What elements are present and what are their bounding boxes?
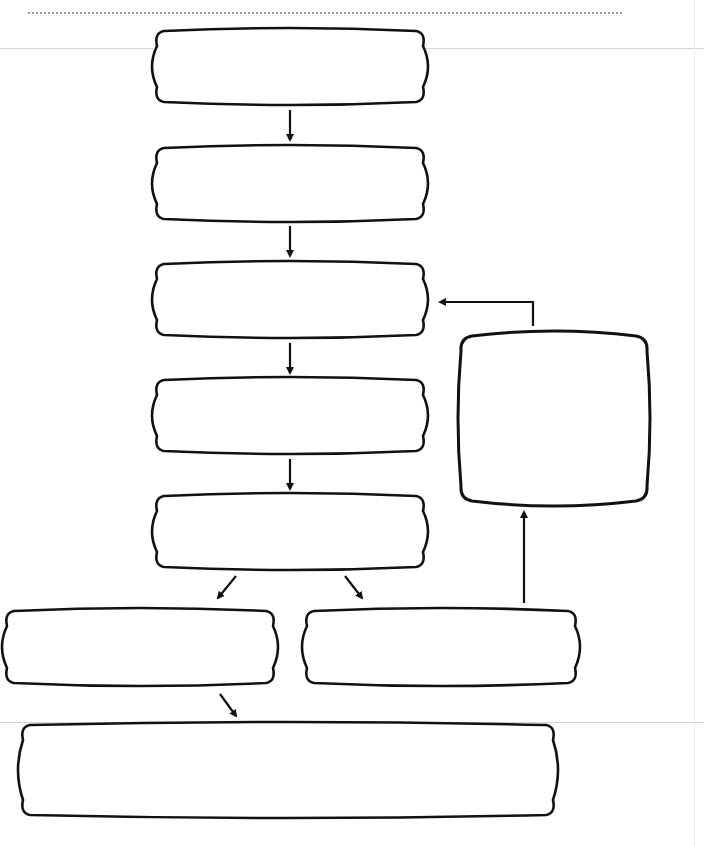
- flowchart-node-n3: [152, 261, 428, 338]
- flowchart-canvas: [0, 0, 704, 846]
- flowchart-node-n5: [152, 493, 428, 570]
- flowchart-node-n2: [152, 145, 428, 222]
- flowchart-node-n4: [152, 377, 428, 454]
- arrow-n5-to-n7: [345, 576, 362, 598]
- flowchart-node-n9: [18, 722, 558, 818]
- arrow-n6-to-n9: [220, 694, 236, 716]
- flowchart-node-n1: [152, 28, 428, 105]
- nodes-layer: [2, 28, 650, 818]
- diagram-svg: [0, 0, 704, 846]
- flowchart-node-n8: [458, 331, 650, 506]
- flowchart-node-n7: [302, 608, 580, 686]
- flowchart-node-n6: [2, 608, 278, 686]
- arrow-n5-to-n6: [218, 576, 236, 598]
- arrow-n8-to-n3: [440, 302, 533, 326]
